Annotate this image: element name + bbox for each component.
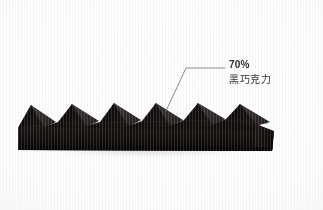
photo-scene: 70% 黑巧克力: [0, 0, 323, 210]
chocolate-bar: [0, 0, 323, 210]
cocoa-percentage-label: 70%: [229, 60, 271, 71]
product-name-label: 黑巧克力: [229, 75, 271, 86]
chocolate-bar-illustration: [0, 0, 323, 210]
annotation-label: 70% 黑巧克力: [229, 60, 271, 85]
